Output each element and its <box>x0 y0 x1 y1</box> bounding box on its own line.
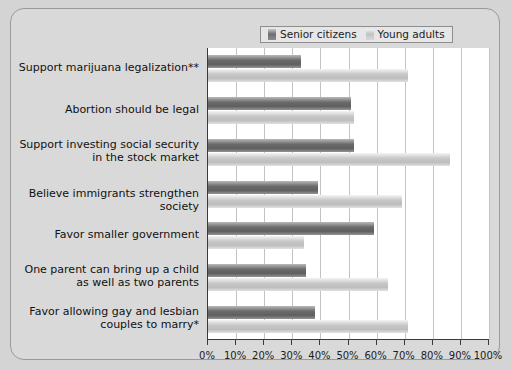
bar-senior-citizens <box>208 181 318 194</box>
x-tick <box>460 340 461 345</box>
category-label: One parent can bring up a child as well … <box>15 263 199 289</box>
x-tick <box>404 340 405 345</box>
x-tick <box>432 340 433 345</box>
chart-plot: 0%10%20%30%40%50%60%70%80%90%100% Suppor… <box>197 48 489 340</box>
bar-senior-citizens <box>208 222 374 235</box>
chart-legend: Senior citizens Young adults <box>260 26 453 43</box>
x-tick-label: 100% <box>474 350 503 361</box>
x-tick <box>207 340 208 345</box>
bar-group <box>208 139 489 166</box>
bar-senior-citizens <box>208 306 315 319</box>
legend-label-senior-citizens: Senior citizens <box>280 29 357 40</box>
x-tick <box>376 340 377 345</box>
bar-senior-citizens <box>208 264 306 277</box>
x-tick-label: 50% <box>336 350 358 361</box>
legend-label-young-adults: Young adults <box>378 29 445 40</box>
x-tick-label: 40% <box>308 350 330 361</box>
chart-plot-area <box>207 48 489 340</box>
bar-group <box>208 97 489 124</box>
category-label: Believe immigrants strengthen society <box>15 187 199 213</box>
category-label: Support marijuana legalization** <box>15 61 199 74</box>
legend-swatch-young-adults <box>366 29 374 40</box>
bar-senior-citizens <box>208 97 351 110</box>
bar-young-adults <box>208 236 304 249</box>
bar-group <box>208 264 489 291</box>
x-tick-label: 10% <box>224 350 246 361</box>
bar-young-adults <box>208 195 402 208</box>
legend-item-young-adults: Young adults <box>366 29 445 40</box>
legend-item-senior-citizens: Senior citizens <box>268 29 357 40</box>
x-tick <box>348 340 349 345</box>
x-tick-label: 20% <box>252 350 274 361</box>
x-tick <box>319 340 320 345</box>
category-label: Support investing social security in the… <box>15 138 199 164</box>
x-tick-label: 30% <box>280 350 302 361</box>
x-tick <box>263 340 264 345</box>
chart-frame: Senior citizens Young adults 0%10%20%30%… <box>10 8 500 360</box>
x-tick <box>291 340 292 345</box>
bar-group <box>208 55 489 82</box>
category-label: Favor allowing gay and lesbian couples t… <box>15 305 199 331</box>
x-tick-label: 70% <box>393 350 415 361</box>
bar-senior-citizens <box>208 55 301 68</box>
bar-group <box>208 181 489 208</box>
bar-group <box>208 222 489 249</box>
category-label: Abortion should be legal <box>15 103 199 116</box>
x-tick <box>235 340 236 345</box>
x-tick-label: 60% <box>364 350 386 361</box>
gridline <box>489 48 490 340</box>
x-tick-label: 80% <box>421 350 443 361</box>
bar-young-adults <box>208 69 408 82</box>
x-tick-label: 0% <box>199 350 215 361</box>
bar-senior-citizens <box>208 139 354 152</box>
x-tick-label: 90% <box>449 350 471 361</box>
bar-group <box>208 306 489 333</box>
bar-young-adults <box>208 278 388 291</box>
x-tick <box>488 340 489 345</box>
bar-young-adults <box>208 153 450 166</box>
bar-young-adults <box>208 320 408 333</box>
category-label: Favor smaller government <box>15 228 199 241</box>
legend-swatch-senior-citizens <box>268 29 276 40</box>
bar-young-adults <box>208 111 354 124</box>
